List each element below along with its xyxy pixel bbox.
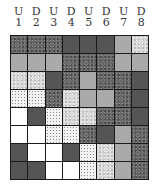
grid-cell <box>28 126 44 143</box>
column-number: 4 <box>68 17 75 28</box>
grid-cell <box>132 90 148 107</box>
grid-cell <box>28 108 44 125</box>
column-header: D2 <box>28 6 46 28</box>
column-number: 2 <box>33 17 40 28</box>
grid-cell <box>80 162 96 179</box>
grid-cell <box>97 54 113 71</box>
grid-cell <box>80 126 96 143</box>
grid-cell <box>80 90 96 107</box>
grid-cell <box>11 72 27 89</box>
column-header: U1 <box>10 6 28 28</box>
grid-cell <box>115 72 131 89</box>
column-header: D4 <box>63 6 81 28</box>
grid-cell <box>63 90 79 107</box>
grid-cell <box>97 108 113 125</box>
grid-cell <box>132 36 148 53</box>
grid-cell <box>132 72 148 89</box>
grid-cell <box>115 90 131 107</box>
grid-cell <box>46 162 62 179</box>
column-number: 5 <box>85 17 92 28</box>
grid-cell <box>132 108 148 125</box>
grid-cell <box>97 90 113 107</box>
grid-cell <box>46 36 62 53</box>
grid-cell <box>132 162 148 179</box>
grid-cell <box>115 126 131 143</box>
grid-cell <box>63 108 79 125</box>
grid-cell <box>28 54 44 71</box>
grid-cell <box>115 36 131 53</box>
grid-cell <box>28 162 44 179</box>
column-header: U3 <box>45 6 63 28</box>
grid-cell <box>63 36 79 53</box>
grid-cell <box>11 108 27 125</box>
column-number: 3 <box>50 17 57 28</box>
grid-cell <box>28 72 44 89</box>
grid-cell <box>97 162 113 179</box>
grid-cell <box>11 90 27 107</box>
grid-cell <box>63 72 79 89</box>
grid-cell <box>28 36 44 53</box>
grid-cell <box>11 126 27 143</box>
grid-cell <box>132 144 148 161</box>
grid-cell <box>11 144 27 161</box>
grid-cell <box>63 126 79 143</box>
grid-cell <box>46 72 62 89</box>
grid-cell <box>115 108 131 125</box>
grid-cell <box>115 144 131 161</box>
grid-cell <box>28 90 44 107</box>
grid-cell <box>80 108 96 125</box>
grid-cell <box>28 144 44 161</box>
grid-cell <box>115 54 131 71</box>
grid-cell <box>80 144 96 161</box>
column-header: U7 <box>115 6 133 28</box>
grid-cell <box>97 36 113 53</box>
grid-cell <box>115 162 131 179</box>
grid-cell <box>46 108 62 125</box>
column-headers: U1 D2 U3 D4 U5 D6 U7 D8 <box>10 6 150 28</box>
grid-cell <box>11 36 27 53</box>
column-number: 8 <box>138 17 145 28</box>
column-header: D8 <box>133 6 151 28</box>
column-number: 1 <box>15 17 22 28</box>
column-number: 7 <box>120 17 127 28</box>
grid-cell <box>11 54 27 71</box>
grid-cell <box>63 144 79 161</box>
grid-cell <box>63 162 79 179</box>
grid-cell <box>132 54 148 71</box>
grid-cell <box>80 54 96 71</box>
grid-cell <box>97 72 113 89</box>
grid-cell <box>97 126 113 143</box>
grid-cell <box>80 72 96 89</box>
grid-cell <box>63 54 79 71</box>
grid-cell <box>46 90 62 107</box>
column-header: D6 <box>98 6 116 28</box>
column-header: U5 <box>80 6 98 28</box>
grid-cell <box>11 162 27 179</box>
grid-cell <box>46 144 62 161</box>
grid-cell <box>132 126 148 143</box>
grid-cell <box>97 144 113 161</box>
grid-cell <box>46 54 62 71</box>
grid-cell <box>46 126 62 143</box>
grid-cell <box>80 36 96 53</box>
column-number: 6 <box>103 17 110 28</box>
pattern-grid <box>10 35 149 180</box>
